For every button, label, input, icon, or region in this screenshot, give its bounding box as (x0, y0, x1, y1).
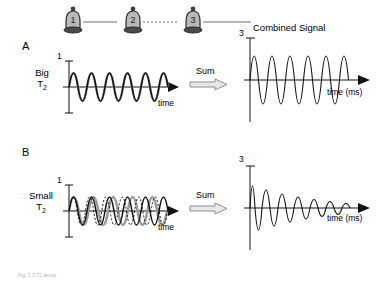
panel-a-right-xaxis-arrowhead (358, 75, 370, 85)
panel-b-right-plot (240, 160, 380, 255)
bell-row: 1 2 3 (55, 4, 255, 38)
combined-signal-title: Combined Signal (253, 22, 325, 33)
panel-a-right-plot (240, 34, 380, 126)
panel-b-left-xaxis-arrowhead (168, 206, 179, 216)
panel-b-right-xaxis-label: time (ms) (327, 213, 362, 223)
bell-2-icon: 2 (124, 7, 142, 33)
panel-b-right-xaxis-arrowhead (358, 203, 370, 213)
panel-b-right-ytick-label: 3 (239, 154, 244, 164)
panel-b-left-ytick-label: 1 (57, 175, 62, 185)
panel-b-sum-arrow-icon (190, 203, 228, 214)
panel-a-condition-label: Big T2 (22, 67, 62, 93)
bell-3-number: 3 (190, 15, 195, 25)
panel-a-left-plot (60, 56, 185, 118)
bell-1-icon: 1 (64, 7, 82, 33)
panel-b-left-xaxis-label: time (158, 222, 174, 232)
bell-2-number: 2 (130, 15, 135, 25)
panel-a-left-ytick-label: 1 (57, 51, 62, 61)
bell-3-icon: 3 (184, 7, 202, 33)
panel-b-sum-label: Sum (196, 190, 215, 200)
panel-a-sum-label: Sum (196, 66, 215, 76)
figure-caption: Fig. 1.3 T2 decay (18, 272, 218, 278)
panel-b-label-line1: Small (29, 190, 53, 201)
panel-a-left-xaxis-arrowhead (168, 82, 179, 92)
panel-letter-b: B (22, 146, 30, 158)
panel-a-right-xaxis-label: time (ms) (327, 87, 362, 97)
panel-a-label-line1: Big (35, 67, 49, 78)
panel-b-left-plot (60, 180, 185, 242)
panel-letter-a: A (22, 40, 30, 52)
panel-a-right-ytick-label: 3 (239, 28, 244, 38)
panel-b-label-sub: 2 (42, 207, 46, 214)
figure-t2-decay: 1 2 3 Combined Signal A Big T2 (0, 0, 387, 285)
panel-a-label-sub: 2 (43, 84, 47, 91)
panel-a-sum-arrow-icon (190, 79, 228, 90)
panel-b-condition-label: Small T2 (18, 190, 64, 216)
panel-a-left-xaxis-label: time (158, 98, 174, 108)
bell-1-number: 1 (70, 15, 75, 25)
